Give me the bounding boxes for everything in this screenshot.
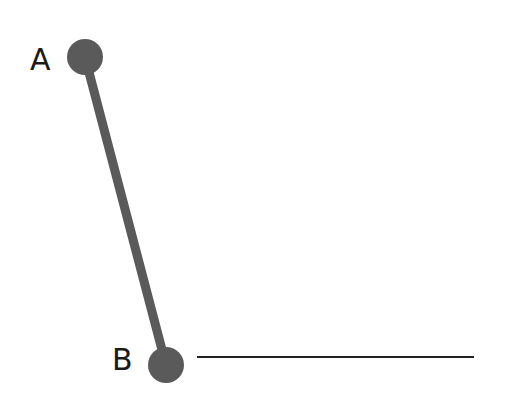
point-b — [148, 347, 184, 383]
label-a: A — [30, 42, 51, 77]
point-a — [67, 39, 103, 75]
segment-ab — [85, 57, 166, 365]
label-b: B — [112, 342, 133, 377]
diagram-canvas: A B — [0, 0, 505, 398]
diagram-svg: A B — [0, 0, 505, 398]
